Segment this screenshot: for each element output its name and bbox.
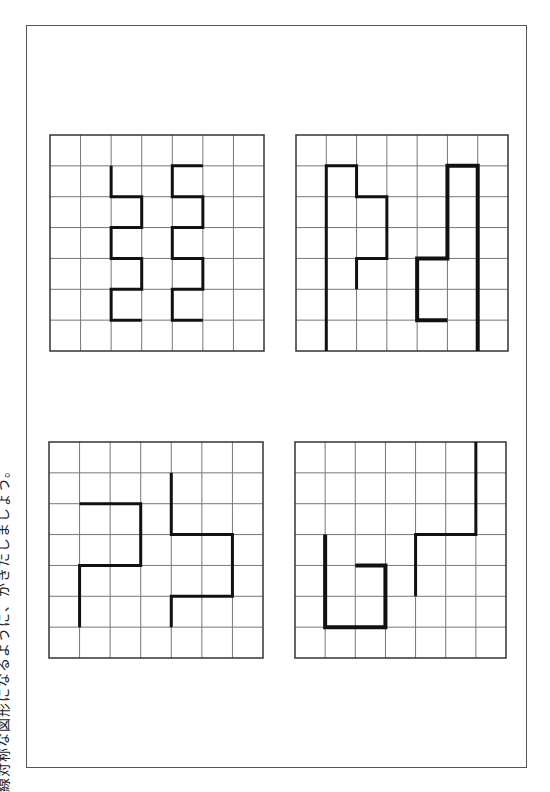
grid-puzzle-top-left: [50, 135, 264, 351]
grid-puzzle-bottom-right: [295, 442, 506, 658]
shape-path-right: [172, 166, 203, 320]
grid-border: [50, 135, 264, 351]
grid-puzzle-top-right: [296, 135, 508, 351]
instruction-text: 線対称な図形になるように、かきたしましょう。: [0, 432, 12, 792]
grid-puzzle-bottom-left: [49, 442, 263, 658]
shape-path-left: [111, 166, 142, 320]
grid-border: [49, 442, 263, 658]
